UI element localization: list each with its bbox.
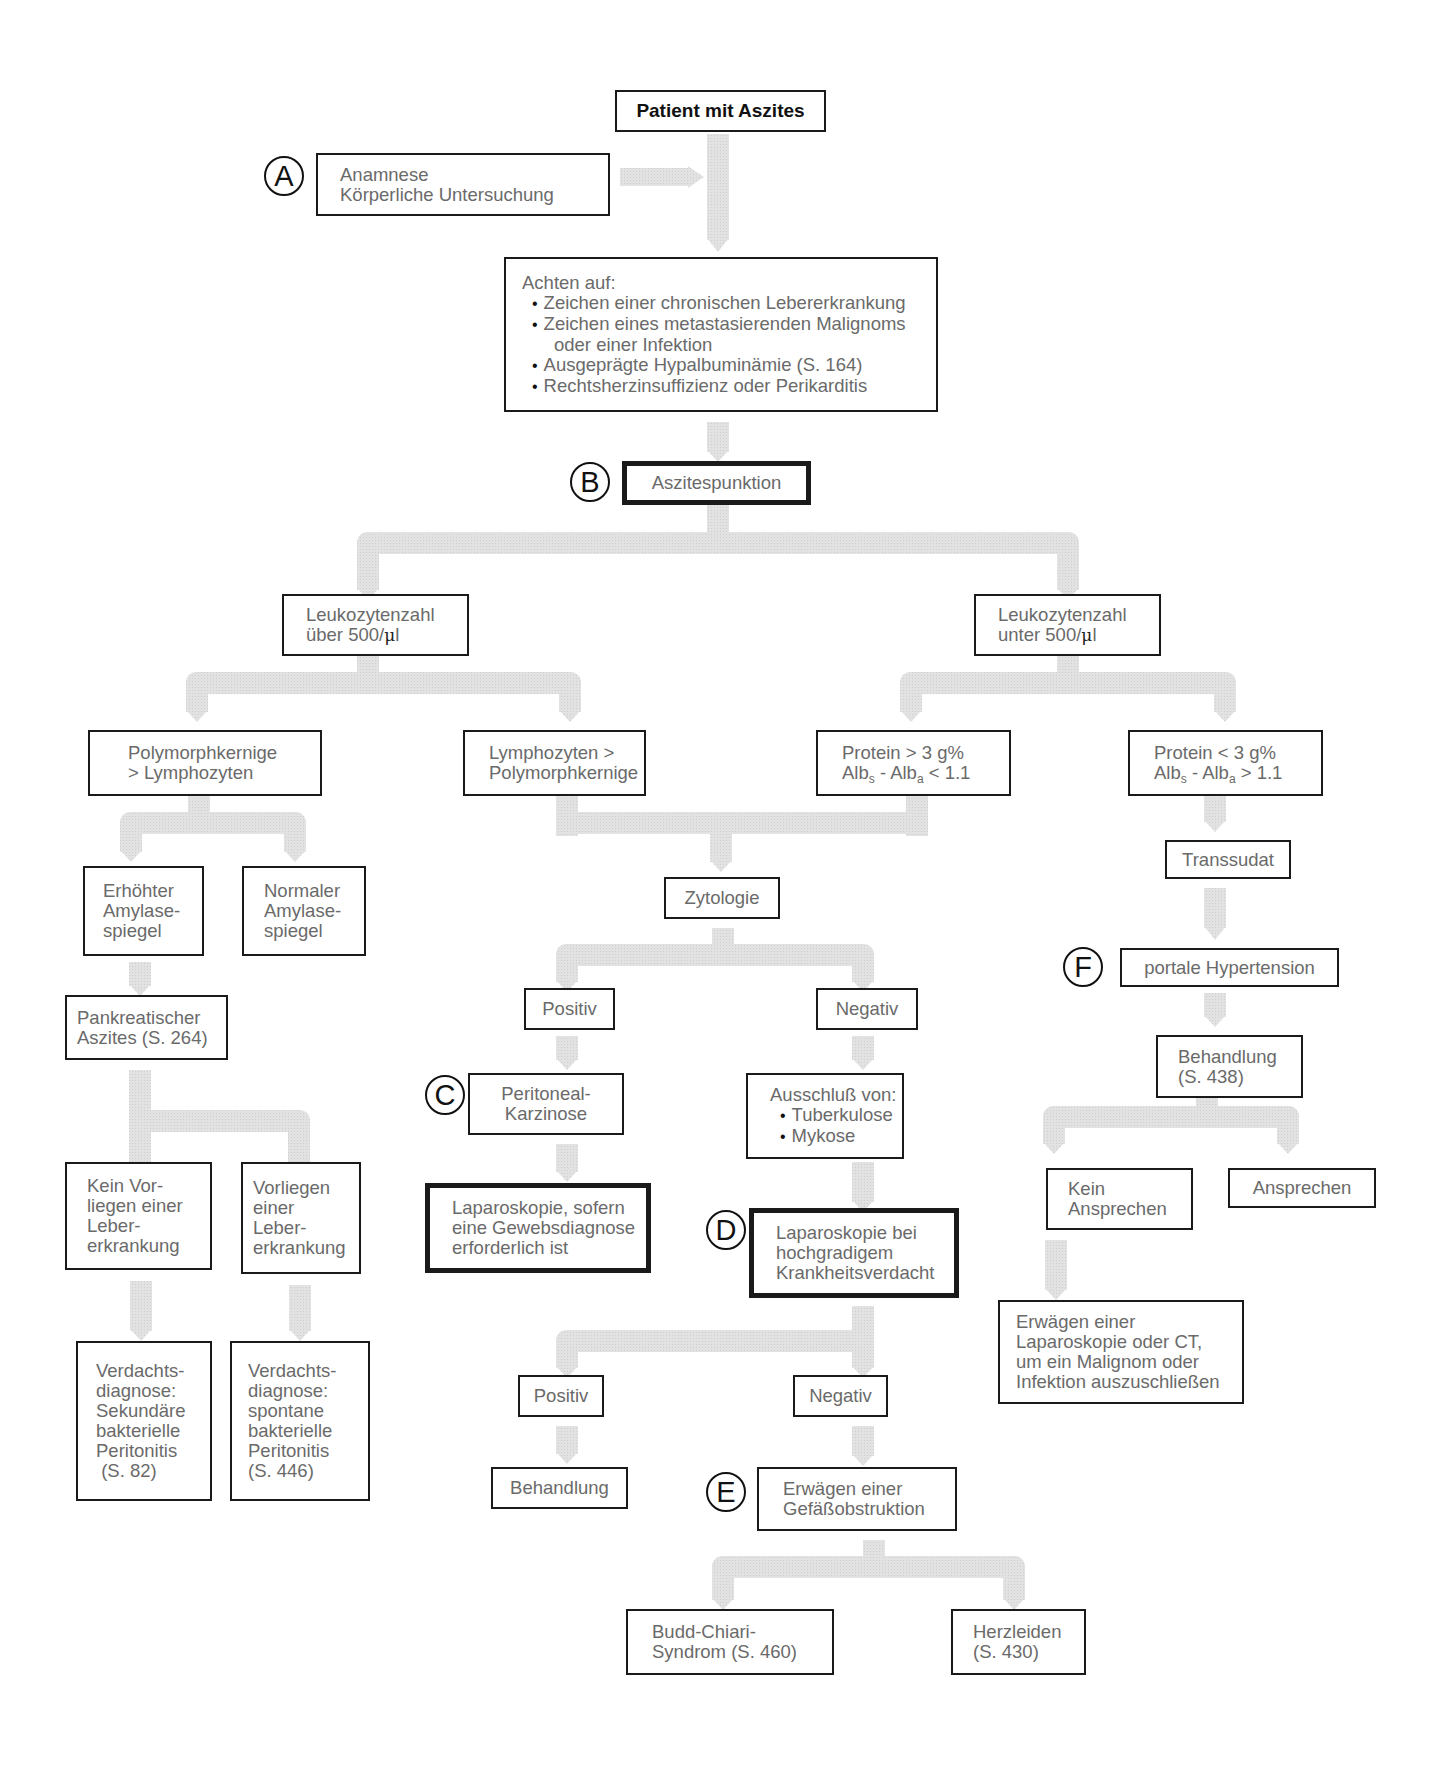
node-protein-gt-3: Protein > 3 g% Albs - Alba < 1.1 bbox=[816, 730, 1011, 796]
node-spontane-bakterielle-peritonitis: Verdachts- diagnose: spontane bakteriell… bbox=[230, 1341, 370, 1501]
node-protein-lt-3: Protein < 3 g% Albs - Alba > 1.1 bbox=[1128, 730, 1323, 796]
node-gefaessobstruktion: Erwägen einer Gefäßobstruktion bbox=[757, 1467, 957, 1531]
node-laparoskopie-gewebsdiagnose: Laparoskopie, sofern eine Gewebsdiagnose… bbox=[425, 1183, 651, 1273]
node-peritoneal-karzinose: Peritoneal- Karzinose bbox=[468, 1073, 624, 1135]
node-pankreatischer-aszites: Pankreatischer Aszites (S. 264) bbox=[65, 995, 228, 1060]
node-ansprechen: Ansprechen bbox=[1228, 1168, 1376, 1208]
node-sekundaere-bakterielle-peritonitis: Verdachts- diagnose: Sekundäre bakteriel… bbox=[76, 1341, 212, 1501]
node-normaler-amylasespiegel: Normaler Amylase- spiegel bbox=[242, 866, 366, 956]
marker-d: D bbox=[706, 1210, 746, 1250]
node-label: Patient mit Aszites bbox=[636, 101, 804, 121]
marker-a: A bbox=[264, 156, 304, 196]
marker-f: F bbox=[1063, 947, 1103, 987]
node-zytologie: Zytologie bbox=[664, 877, 780, 919]
node-portale-hypertension: portale Hypertension bbox=[1120, 948, 1339, 987]
node-zytologie-positiv: Positiv bbox=[524, 988, 615, 1030]
node-behandlung-positiv: Behandlung bbox=[491, 1467, 628, 1509]
bullet-icon bbox=[532, 313, 544, 334]
node-achten-auf: Achten auf: Zeichen einer chronischen Le… bbox=[504, 257, 938, 412]
node-erwaegen-laparoskopie-ct: Erwägen einer Laparoskopie oder CT, um e… bbox=[998, 1300, 1244, 1404]
node-patient-mit-aszites: Patient mit Aszites bbox=[615, 90, 826, 132]
bullet-icon bbox=[532, 354, 544, 375]
node-budd-chiari-syndrom: Budd-Chiari- Syndrom (S. 460) bbox=[626, 1609, 834, 1675]
bullet-icon bbox=[532, 375, 544, 396]
node-laparoskopie-positiv: Positiv bbox=[518, 1375, 604, 1417]
node-kein-ansprechen: Kein Ansprechen bbox=[1046, 1168, 1193, 1230]
node-zytologie-negativ: Negativ bbox=[816, 988, 918, 1030]
node-kein-vorliegen-lebererkrankung: Kein Vor- liegen einer Leber- erkrankung bbox=[65, 1162, 212, 1270]
node-ausschluss: Ausschluß von: Tuberkulose Mykose bbox=[746, 1073, 904, 1159]
bullet-icon bbox=[780, 1104, 792, 1125]
node-aszitespunktion: Aszitespunktion bbox=[622, 461, 811, 505]
bullet-icon bbox=[780, 1125, 792, 1146]
node-erhoehter-amylasespiegel: Erhöhter Amylase- spiegel bbox=[83, 866, 204, 956]
node-leukozyten-unter-500: Leukozytenzahl unter 500/μl bbox=[974, 594, 1161, 656]
marker-b: B bbox=[570, 462, 610, 502]
node-lymphozyten-gt-polymorphkernige: Lymphozyten > Polymorphkernige bbox=[463, 730, 646, 796]
node-behandlung-s438: Behandlung (S. 438) bbox=[1156, 1035, 1303, 1098]
node-polymorphkernige-gt-lymphozyten: Polymorphkernige > Lymphozyten bbox=[88, 730, 322, 796]
node-transsudat: Transsudat bbox=[1165, 840, 1291, 879]
node-laparoskopie-negativ: Negativ bbox=[793, 1375, 888, 1417]
marker-c: C bbox=[425, 1075, 465, 1115]
marker-e: E bbox=[706, 1472, 746, 1512]
node-anamnese: Anamnese Körperliche Untersuchung bbox=[316, 153, 610, 216]
node-leukozyten-ueber-500: Leukozytenzahl über 500/μl bbox=[282, 594, 469, 656]
node-laparoskopie-krankheitsverdacht: Laparoskopie bei hochgradigem Krankheits… bbox=[749, 1208, 959, 1298]
node-vorliegen-lebererkrankung: Vorliegen einer Leber- erkrankung bbox=[241, 1162, 361, 1274]
bullet-icon bbox=[532, 292, 544, 313]
node-herzleiden: Herzleiden (S. 430) bbox=[951, 1609, 1086, 1675]
